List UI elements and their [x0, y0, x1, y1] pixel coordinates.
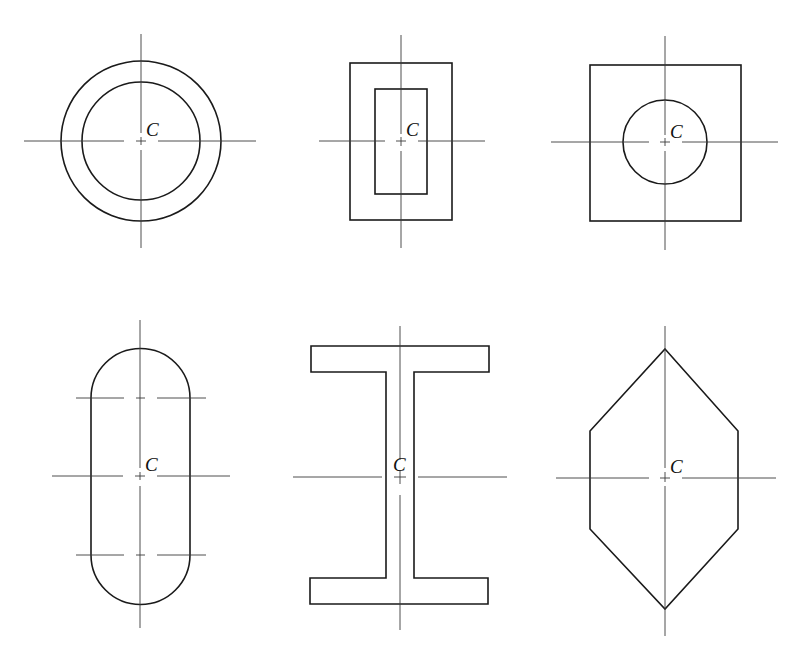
centroid-label: C [670, 121, 683, 142]
shape-stadium: C [52, 320, 230, 628]
centroid-label: C [146, 119, 159, 140]
centroid-label: C [145, 454, 158, 475]
centroid-label: C [393, 454, 406, 475]
stadium-outline [91, 349, 190, 605]
hexagon-outline [590, 349, 738, 609]
cross-sections-diagram: C C C C [0, 0, 808, 664]
shape-rect-frame: C [319, 35, 485, 248]
shape-annulus: C [24, 34, 256, 248]
shape-square-with-circle: C [551, 36, 778, 250]
centroid-label: C [406, 119, 419, 140]
outer-square [590, 65, 741, 221]
shape-hexagon: C [556, 326, 776, 636]
shape-i-beam: C [293, 326, 507, 630]
centroid-label: C [670, 456, 683, 477]
i-beam-outline [310, 346, 489, 604]
